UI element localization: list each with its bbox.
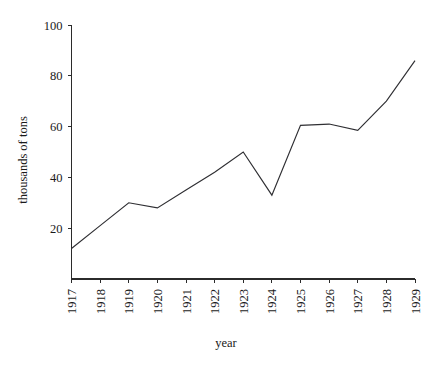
data-line-tonnage xyxy=(72,61,416,249)
x-tick-label: 1920 xyxy=(151,289,165,314)
x-tick-label: 1924 xyxy=(265,288,279,314)
x-tick-label: 1929 xyxy=(409,289,423,314)
x-tick-label: 1918 xyxy=(94,289,108,314)
x-tick-label: 1926 xyxy=(323,289,337,314)
x-tick-label: 1922 xyxy=(208,289,222,314)
x-tick-label: 1921 xyxy=(180,289,194,314)
x-axis-title: year xyxy=(215,336,237,350)
chart-canvas: 20406080100 1917191819191920192119221923… xyxy=(0,0,442,366)
x-tick-label: 1919 xyxy=(122,289,136,314)
x-tick-label: 1927 xyxy=(351,289,365,314)
y-tick-group: 20406080100 xyxy=(44,19,72,236)
y-tick-label: 80 xyxy=(50,69,63,83)
y-tick-label: 60 xyxy=(50,120,63,134)
y-axis-group: 20406080100 xyxy=(44,19,72,280)
x-tick-label: 1917 xyxy=(65,289,79,314)
line-chart-figure: 20406080100 1917191819191920192119221923… xyxy=(0,0,442,366)
y-axis-title: thousands of tons xyxy=(16,116,30,204)
y-tick-label: 100 xyxy=(44,19,63,33)
plot-series-group xyxy=(72,61,416,249)
y-tick-label: 20 xyxy=(50,222,63,236)
x-tick-group: 1917191819191920192119221923192419251926… xyxy=(65,279,423,314)
y-tick-label: 40 xyxy=(50,171,63,185)
x-tick-label: 1923 xyxy=(237,289,251,314)
x-tick-label: 1928 xyxy=(380,289,394,314)
x-tick-label: 1925 xyxy=(294,289,308,314)
x-axis-group: 1917191819191920192119221923192419251926… xyxy=(65,279,423,314)
